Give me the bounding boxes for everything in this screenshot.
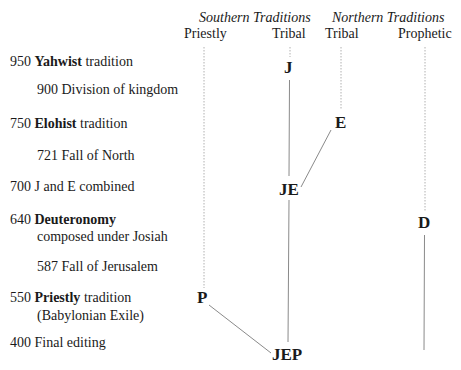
- column-priestly: Priestly: [184, 26, 227, 42]
- timeline-400: 400 Final editing: [10, 335, 106, 351]
- tradition-name: Yahwist: [35, 54, 82, 69]
- timeline-550: 550 Priestly tradition: [10, 290, 131, 306]
- node-d: D: [418, 214, 430, 232]
- year: 640: [10, 212, 31, 227]
- timeline-550-line2: (Babylonian Exile): [37, 308, 144, 324]
- column-prophetic: Prophetic: [398, 26, 452, 42]
- timeline-640: 640 Deuteronomy: [10, 212, 116, 228]
- column-northern-tribal: Tribal: [325, 26, 359, 42]
- column-southern-tribal: Tribal: [272, 26, 306, 42]
- e-to-je-line: [301, 130, 331, 187]
- timeline-750: 750 Elohist tradition: [10, 116, 127, 132]
- timeline-587: 587 Fall of Jerusalem: [37, 259, 158, 275]
- year: 900: [37, 82, 58, 97]
- timeline-700: 700 J and E combined: [10, 179, 134, 195]
- event-text: Final editing: [31, 335, 106, 350]
- node-jep: JEP: [272, 346, 302, 364]
- timeline-640-line2: composed under Josiah: [37, 229, 168, 245]
- event-text: tradition: [77, 116, 128, 131]
- node-j: J: [284, 59, 293, 77]
- northern-traditions-heading: Northern Traditions: [332, 10, 444, 26]
- year: 721: [37, 148, 58, 163]
- timeline-721: 721 Fall of North: [37, 148, 135, 164]
- je-to-jep-line: [288, 200, 289, 342]
- tradition-name: Deuteronomy: [35, 212, 116, 227]
- year: 550: [10, 290, 31, 305]
- d-line: [424, 235, 425, 350]
- node-e: E: [335, 114, 346, 132]
- event-text: Fall of Jerusalem: [58, 259, 158, 274]
- tradition-name: Elohist: [35, 116, 77, 131]
- event-text: Division of kingdom: [58, 82, 178, 97]
- year: 587: [37, 259, 58, 274]
- year: 950: [10, 54, 31, 69]
- tradition-name: Priestly: [35, 290, 81, 305]
- event-text: tradition: [80, 290, 131, 305]
- node-je: JE: [279, 181, 299, 199]
- year: 700: [10, 179, 31, 194]
- node-p: P: [197, 289, 207, 307]
- j-to-je-line: [289, 80, 290, 176]
- event-text: tradition: [82, 54, 133, 69]
- timeline-900: 900 Division of kingdom: [37, 82, 178, 98]
- timeline-950: 950 Yahwist tradition: [10, 54, 133, 70]
- year: 750: [10, 116, 31, 131]
- southern-traditions-heading: Southern Traditions: [199, 10, 311, 26]
- event-text: Fall of North: [58, 148, 135, 163]
- event-text: J and E combined: [31, 179, 134, 194]
- p-to-jep-line: [209, 305, 271, 353]
- year: 400: [10, 335, 31, 350]
